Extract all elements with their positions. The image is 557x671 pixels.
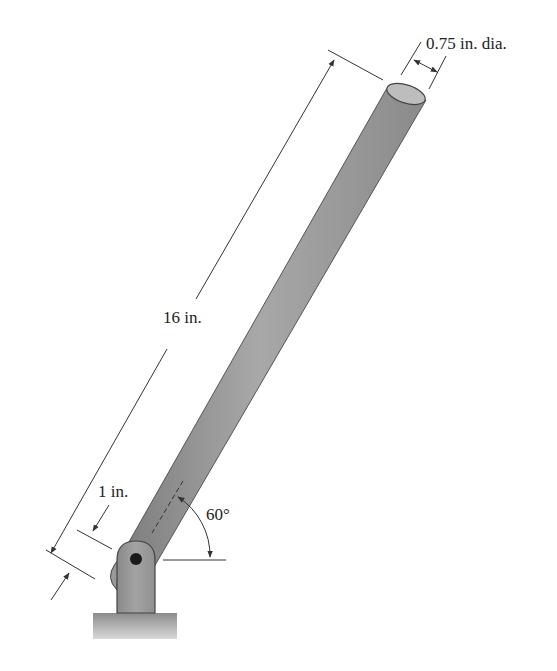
diameter-label: 0.75 in. dia. [426, 34, 507, 53]
ground-base [93, 613, 177, 639]
rod-diagram: 0.75 in. dia. 16 in. 1 in. 60° [0, 0, 557, 671]
offset-dimension [51, 505, 112, 600]
pin-icon [130, 553, 142, 565]
angle-label: 60° [206, 505, 230, 524]
offset-label: 1 in. [98, 482, 128, 501]
length-label: 16 in. [163, 308, 202, 327]
pin-bracket [110, 541, 155, 613]
length-dimension [46, 50, 383, 579]
